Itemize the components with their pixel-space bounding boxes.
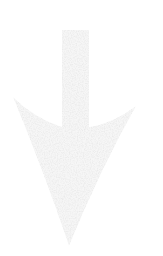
down-arrow-graphic [0, 0, 163, 256]
canvas [0, 0, 163, 256]
down-arrow-shape [0, 0, 163, 256]
stipple-texture [0, 0, 163, 256]
